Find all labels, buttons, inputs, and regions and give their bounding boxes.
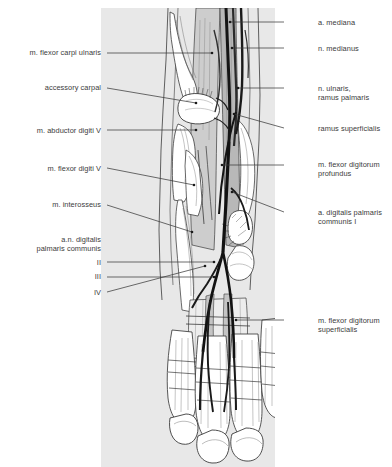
label-digit-iii: III	[9, 272, 101, 281]
label-m-flexor-digitorum-superficialis: m. flexor digitorum superficialis	[318, 316, 392, 335]
label-digit-iv: IV	[9, 288, 101, 297]
anatomy-illustration	[0, 0, 392, 467]
label-a-mediana: a. mediana	[318, 18, 388, 27]
label-m-interosseus: m. interosseus	[9, 200, 101, 209]
label-a-digitalis-palmaris-communis-i: a. digitalis palmaris communis I	[318, 208, 392, 227]
label-n-ulnaris-ramus-palmaris: n. ulnaris, ramus palmaris	[318, 84, 388, 103]
label-digit-ii: II	[9, 258, 101, 267]
label-an-digitalis-palmaris-communis: a.n. digitalis palmaris communis	[9, 235, 101, 254]
label-m-abductor-digiti-v: m. abductor digiti V	[9, 126, 101, 135]
label-accessory-carpal: accessory carpal	[9, 83, 101, 92]
label-m-flexor-digitorum-profundus: m. flexor digitorum profundus	[318, 160, 392, 179]
label-m-flexor-digiti-v: m. flexor digiti V	[9, 164, 101, 173]
anatomical-figure: m. flexor carpi ulnaris accessory carpal…	[0, 0, 392, 467]
label-n-medianus: n. medianus	[318, 44, 388, 53]
label-m-flexor-carpi-ulnaris: m. flexor carpi ulnaris	[9, 48, 101, 57]
label-ramus-superficialis: ramus superficialis	[318, 124, 392, 133]
